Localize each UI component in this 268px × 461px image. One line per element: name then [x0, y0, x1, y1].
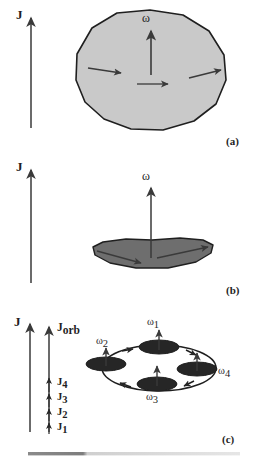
panel-c-tag: (c) — [222, 433, 235, 446]
panel-c-jorb-sub: orb — [63, 324, 80, 336]
panel-b-j-label: J — [16, 159, 23, 174]
panel-c-j-label: J — [14, 314, 21, 329]
panel-b-omega-label: ω — [142, 169, 150, 183]
panel-a-tag: (a) — [226, 135, 239, 148]
figure-root: J ω (a) J ω (b) J Jorb — [0, 0, 268, 461]
panel-a-omega-label: ω — [142, 11, 150, 25]
panel-b-tag: (b) — [226, 284, 240, 297]
panel-a-j-label: J — [16, 7, 23, 22]
physics-figure: J ω (a) J ω (b) J Jorb — [0, 0, 268, 461]
bottom-rule — [28, 452, 240, 455]
